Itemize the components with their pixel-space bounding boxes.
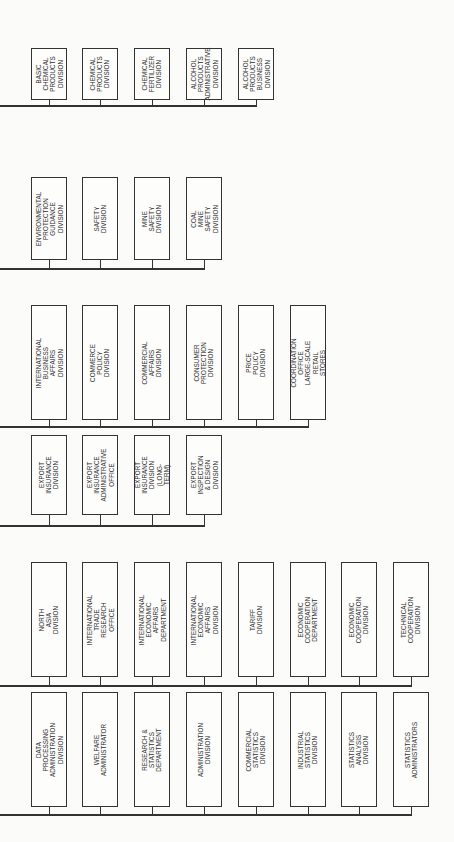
connector-stub (49, 515, 50, 526)
org-unit-box: TARIFF DIVISION (238, 562, 274, 677)
connector-stub (204, 807, 205, 815)
connector-stub (100, 515, 101, 526)
org-unit-label: RESEARCH & STATISTICS DEPARTMENT (141, 728, 163, 771)
org-unit-box: ECONOMIC COOPERATION DEPARTMENT (290, 562, 326, 677)
org-unit-label: INTERNATIONAL ECONOMIC AFFAIRS DEPARTMEN… (138, 594, 167, 645)
org-unit-box: DATA PROCESSING ADMINISTRATION DIVISION (31, 692, 67, 807)
org-unit-box: EXPORT INSURANCE DIVISION (31, 435, 67, 515)
org-unit-box: PRICE POLICY DIVISION (238, 305, 274, 420)
org-unit-label: STATISTICS ANALYSIS DIVISION (348, 732, 370, 768)
org-unit-box: TECHNICAL COOPERATION DIVISION (393, 562, 429, 677)
org-unit-box: EXPORT INSPECTION & DESIGN DIVISION (186, 435, 222, 515)
org-unit-box: BASIC CHEMICAL PRODUCTS DIVISION (31, 48, 67, 100)
org-unit-box: CONSUMER PROTECTION DIVISION (186, 305, 222, 420)
org-unit-label: INTERNATIONAL ECONOMIC AFFAIRS DIVISION (190, 594, 219, 645)
org-unit-box: COMMERCE POLICY DIVISION (82, 305, 118, 420)
connector-stub (152, 807, 153, 815)
org-unit-label: NORTH ASIA DIVISION (38, 605, 60, 633)
connector-stub (204, 677, 205, 686)
connector-line-band-1 (0, 105, 257, 107)
connector-stub (100, 260, 101, 269)
connector-stub (49, 260, 50, 269)
org-unit-box: COAL MINE SAFETY DIVISION (186, 177, 222, 260)
org-unit-label: ENVIRONMENTAL PROTECTION GUIDANCE DIVISI… (35, 191, 64, 245)
org-unit-label: TARIFF DIVISION (249, 605, 263, 633)
connector-stub (359, 807, 360, 815)
org-unit-label: EXPORT INSURANCE ADMINISTRATIVE OFFICE (86, 448, 115, 501)
org-unit-box: INTERNATIONAL ECONOMIC AFFAIRS DIVISION (186, 562, 222, 677)
org-unit-box: ENVIRONMENTAL PROTECTION GUIDANCE DIVISI… (31, 177, 67, 260)
connector-stub (152, 677, 153, 686)
org-unit-label: ALCOHOL PRODUCTS BUSINESS DIVISION (242, 56, 271, 92)
org-unit-label: EXPORT INSPECTION & DESIGN DIVISION (190, 456, 219, 495)
org-unit-box: ALCOHOL PRODUCTS ADMINISTRATIVE DIVISION (186, 48, 222, 100)
org-unit-label: COMMERCIAL AFFAIRS DIVISION (141, 341, 163, 384)
org-unit-label: WELFARE ADMINISTRATOR (93, 723, 107, 775)
org-unit-label: MINE SAFETY DIVISION (141, 204, 163, 232)
connector-stub (49, 420, 50, 427)
connector-stub (411, 807, 412, 815)
org-unit-label: ECONOMIC COOPERATION DIVISION (348, 596, 370, 643)
org-unit-label: SAFETY DIVISION (93, 204, 107, 232)
org-unit-box: RESEARCH & STATISTICS DEPARTMENT (134, 692, 170, 807)
org-unit-box: NORTH ASIA DIVISION (31, 562, 67, 677)
connector-stub (100, 420, 101, 427)
org-unit-box: STATISTICS ANALYSIS DIVISION (341, 692, 377, 807)
connector-stub (204, 260, 205, 269)
org-unit-box: ECONOMIC COOPERATION DIVISION (341, 562, 377, 677)
connector-line-band-4 (0, 525, 205, 527)
org-unit-label: INTERNATIONAL BUSINESS AFFAIRS DIVISION (35, 337, 64, 388)
connector-stub (100, 807, 101, 815)
connector-stub (152, 100, 153, 106)
connector-stub (152, 515, 153, 526)
org-unit-label: CONSUMER PROTECTION DIVISION (193, 342, 215, 384)
org-unit-label: EXPORT INSURANCE DIVISION (LONG-TERM) (134, 456, 170, 494)
connector-stub (256, 420, 257, 427)
org-unit-label: COAL MINE SAFETY DIVISION (190, 204, 219, 232)
connector-stub (308, 677, 309, 686)
org-unit-label: TECHNICAL COOPERATION DIVISION (400, 596, 422, 643)
org-unit-box: WELFARE ADMINISTRATOR (82, 692, 118, 807)
org-unit-box: CHEMICAL FERTILIZER DIVISION (134, 48, 170, 100)
connector-stub (152, 420, 153, 427)
org-unit-label: ADMINISTRATION DIVISION (197, 722, 211, 776)
org-unit-label: COMMERCE POLICY DIVISION (89, 344, 111, 382)
connector-stub (204, 420, 205, 427)
org-unit-box: INDUSTRIAL STATISTICS DIVISION (290, 692, 326, 807)
org-unit-label: DATA PROCESSING ADMINISTRATION DIVISION (35, 722, 64, 776)
org-unit-label: CHEMICAL PRODUCTS DIVISION (89, 56, 111, 92)
org-unit-box: ALCOHOL PRODUCTS BUSINESS DIVISION (238, 48, 274, 100)
org-unit-box: EXPORT INSURANCE DIVISION (LONG-TERM) (134, 435, 170, 515)
org-unit-label: PRICE POLICY DIVISION (245, 348, 267, 376)
org-unit-box: STATISTICS ADMINISTRATORS (393, 692, 429, 807)
connector-line-band-3 (0, 426, 309, 428)
org-unit-box: INTERNATIONAL BUSINESS AFFAIRS DIVISION (31, 305, 67, 420)
org-unit-box: EXPORT INSURANCE ADMINISTRATIVE OFFICE (82, 435, 118, 515)
connector-stub (49, 100, 50, 106)
org-unit-label: INDUSTRIAL STATISTICS DIVISION (297, 731, 319, 769)
org-unit-box: INTERNATIONAL ECONOMIC AFFAIRS DEPARTMEN… (134, 562, 170, 677)
org-unit-label: COORDINATION OFFICE LARGE-SCALE RETAIL S… (290, 338, 326, 387)
org-unit-box: COMMERCIAL STATISTICS DIVISION (238, 692, 274, 807)
connector-line-band-6 (0, 814, 412, 816)
org-unit-box: CHEMICAL PRODUCTS DIVISION (82, 48, 118, 100)
org-unit-label: BASIC CHEMICAL PRODUCTS DIVISION (35, 56, 64, 92)
org-unit-label: INTERNATIONAL TRADE RESEARCH OFFICE (86, 594, 115, 645)
connector-stub (204, 100, 205, 106)
org-unit-box: MINE SAFETY DIVISION (134, 177, 170, 260)
connector-stub (100, 677, 101, 686)
connector-line-band-5 (0, 685, 412, 687)
org-unit-label: ALCOHOL PRODUCTS ADMINISTRATIVE DIVISION (190, 47, 219, 100)
org-unit-box: SAFETY DIVISION (82, 177, 118, 260)
org-unit-box: INTERNATIONAL TRADE RESEARCH OFFICE (82, 562, 118, 677)
connector-stub (256, 807, 257, 815)
connector-stub (308, 420, 309, 427)
org-unit-label: CHEMICAL FERTILIZER DIVISION (141, 56, 163, 92)
connector-stub (359, 677, 360, 686)
connector-stub (256, 100, 257, 106)
connector-stub (256, 677, 257, 686)
connector-stub (152, 260, 153, 269)
connector-stub (204, 515, 205, 526)
org-unit-box: COORDINATION OFFICE LARGE-SCALE RETAIL S… (290, 305, 326, 420)
org-unit-box: ADMINISTRATION DIVISION (186, 692, 222, 807)
